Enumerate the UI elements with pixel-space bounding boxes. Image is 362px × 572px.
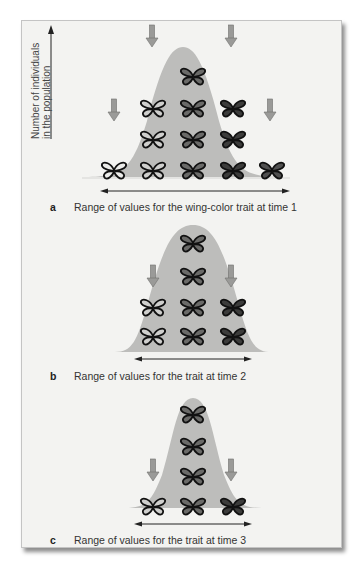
panel-c-graphic: [22, 390, 341, 550]
caption-c: cRange of values for the trait at time 3: [50, 534, 246, 546]
caption-text: Range of values for the trait at time 2: [74, 370, 246, 382]
panel-a: aRange of values for the wing-color trai…: [22, 21, 341, 201]
range-double-arrow-icon: [100, 189, 290, 194]
panel-letter: c: [50, 534, 74, 546]
panel-a-graphic: [22, 21, 341, 201]
panel-c: cRange of values for the trait at time 3: [22, 390, 341, 550]
range-double-arrow-icon: [134, 522, 252, 527]
figure-panel: Number of individuals in the population: [21, 20, 342, 548]
caption-text: Range of values for the trait at time 3: [74, 534, 246, 546]
range-double-arrow-icon: [134, 357, 252, 362]
panel-letter: b: [50, 370, 74, 382]
panel-b: bRange of values for the trait at time 2: [22, 211, 341, 391]
caption-b: bRange of values for the trait at time 2: [50, 370, 246, 382]
panel-b-graphic: [22, 211, 341, 391]
